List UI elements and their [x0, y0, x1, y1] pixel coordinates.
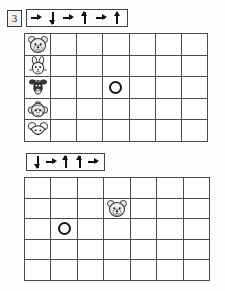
grid-section-2[interactable] — [24, 177, 210, 281]
grid-cell[interactable] — [51, 99, 77, 121]
grid-cell[interactable] — [25, 260, 51, 281]
grid-cell[interactable] — [157, 219, 183, 240]
grid-cell[interactable] — [157, 199, 183, 220]
grid-cell[interactable] — [157, 260, 183, 281]
arrow-right-icon — [88, 155, 99, 169]
circle-token-icon — [109, 81, 122, 94]
arrow-up-icon — [112, 11, 123, 25]
grid-cell[interactable] — [103, 77, 129, 99]
grid-cell[interactable] — [130, 77, 156, 99]
grid-cell[interactable] — [78, 219, 104, 240]
grid-cell[interactable] — [130, 56, 156, 78]
grid-cell[interactable] — [104, 199, 130, 220]
grid-cell[interactable] — [156, 99, 182, 121]
grid-cell[interactable] — [51, 240, 77, 261]
arrow-down-icon — [47, 11, 58, 25]
grid-cell[interactable] — [51, 260, 77, 281]
grid-cell[interactable] — [51, 56, 77, 78]
grid-cell[interactable] — [182, 99, 208, 121]
rabbit-face-icon — [27, 56, 49, 75]
grid-cell[interactable] — [25, 34, 51, 56]
grid-cell[interactable] — [51, 219, 77, 240]
arrow-up-icon — [74, 155, 85, 169]
grid-cell[interactable] — [77, 56, 103, 78]
grid-cell[interactable] — [103, 56, 129, 78]
arrow-sequence-2 — [26, 153, 105, 171]
grid-cell[interactable] — [25, 77, 51, 99]
grid-cell[interactable] — [25, 99, 51, 121]
grid-cell[interactable] — [25, 199, 51, 220]
grid-cell[interactable] — [182, 34, 208, 56]
grid-cell[interactable] — [78, 240, 104, 261]
grid-cell[interactable] — [77, 34, 103, 56]
cow-face-icon — [27, 78, 49, 97]
grid-cell[interactable] — [184, 219, 210, 240]
grid-cell[interactable] — [157, 240, 183, 261]
grid-cell[interactable] — [78, 260, 104, 281]
grid-cell[interactable] — [51, 77, 77, 99]
grid-cell[interactable] — [104, 240, 130, 261]
arrow-up-icon — [80, 11, 91, 25]
grid-cell[interactable] — [103, 34, 129, 56]
grid-cell[interactable] — [131, 219, 157, 240]
grid-cell[interactable] — [131, 199, 157, 220]
arrow-down-icon — [32, 155, 43, 169]
arrow-right-icon — [46, 155, 57, 169]
grid-cell[interactable] — [184, 199, 210, 220]
grid-cell[interactable] — [51, 34, 77, 56]
grid-cell[interactable] — [77, 120, 103, 142]
grid-cell[interactable] — [104, 219, 130, 240]
exercise-number-badge: 3 — [7, 10, 22, 27]
grid-cell[interactable] — [156, 120, 182, 142]
grid-cell[interactable] — [130, 34, 156, 56]
bear-face-icon — [27, 35, 49, 54]
grid-cell[interactable] — [51, 120, 77, 142]
grid-cell[interactable] — [182, 56, 208, 78]
arrow-sequence-1 — [26, 9, 128, 27]
grid-cell[interactable] — [182, 120, 208, 142]
grid-cell[interactable] — [25, 178, 51, 199]
grid-cell[interactable] — [184, 178, 210, 199]
grid-cell[interactable] — [103, 120, 129, 142]
grid-cell[interactable] — [184, 240, 210, 261]
grid-cell[interactable] — [104, 178, 130, 199]
grid-cell[interactable] — [156, 56, 182, 78]
arrow-right-icon — [96, 11, 107, 25]
worksheet-page: 3 — [0, 0, 225, 291]
grid-cell[interactable] — [25, 219, 51, 240]
arrow-up-icon — [60, 155, 71, 169]
grid-cell[interactable] — [184, 260, 210, 281]
grid-cell[interactable] — [131, 260, 157, 281]
grid-cell[interactable] — [25, 240, 51, 261]
grid-cell[interactable] — [131, 240, 157, 261]
grid-cell[interactable] — [104, 260, 130, 281]
grid-cell[interactable] — [156, 77, 182, 99]
grid-cell[interactable] — [130, 120, 156, 142]
grid-cell[interactable] — [156, 34, 182, 56]
grid-cell[interactable] — [130, 99, 156, 121]
monkey-face-icon — [27, 100, 49, 119]
grid-cell[interactable] — [103, 99, 129, 121]
bear-face-icon — [106, 199, 128, 218]
grid-cell[interactable] — [157, 178, 183, 199]
arrow-right-icon — [63, 11, 74, 25]
grid-cell[interactable] — [78, 178, 104, 199]
grid-cell[interactable] — [25, 56, 51, 78]
grid-section-1[interactable] — [24, 33, 208, 142]
arrow-right-icon — [31, 11, 42, 25]
grid-cell[interactable] — [25, 120, 51, 142]
circle-token-icon — [58, 222, 71, 235]
grid-cell[interactable] — [182, 77, 208, 99]
grid-cell[interactable] — [51, 178, 77, 199]
grid-cell[interactable] — [131, 178, 157, 199]
mouse-face-icon — [27, 121, 49, 140]
grid-cell[interactable] — [77, 99, 103, 121]
grid-cell[interactable] — [51, 199, 77, 220]
grid-cell[interactable] — [78, 199, 104, 220]
grid-cell[interactable] — [77, 77, 103, 99]
